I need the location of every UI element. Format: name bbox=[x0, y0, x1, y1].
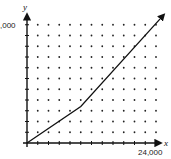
line-chart: y x ,000 24,000 bbox=[0, 0, 171, 159]
x-axis-name: x bbox=[163, 138, 168, 148]
data-line bbox=[27, 15, 164, 143]
y-axis-name: y bbox=[22, 2, 27, 12]
dot-grid bbox=[37, 24, 157, 133]
axis-ticks bbox=[25, 25, 156, 145]
y-tick-label: ,000 bbox=[0, 21, 16, 30]
x-tick-label: 24,000 bbox=[138, 148, 163, 157]
